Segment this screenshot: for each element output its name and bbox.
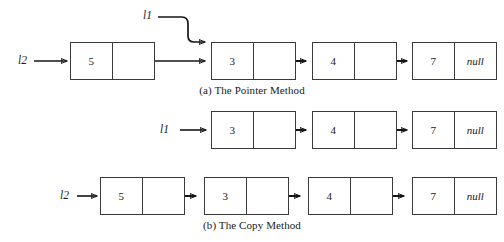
node-3-middle: 3 (211, 111, 296, 149)
node-7-data-cell-bottom: 7 (413, 178, 455, 214)
l2-pointer-label-top: l2 (18, 55, 27, 67)
node-4-data-cell-middle: 4 (313, 112, 355, 148)
node-7-null-cell-top: null (455, 43, 497, 79)
node-5-top: 5 (70, 42, 155, 80)
node-5-data-cell-bottom: 5 (101, 178, 143, 214)
node-4-next-cell-middle (355, 112, 397, 148)
node-3-data-cell-bottom: 3 (205, 178, 247, 214)
node-4-top: 4 (312, 42, 397, 80)
node-7-null-cell-middle: null (455, 112, 497, 148)
node-3-top: 3 (211, 42, 296, 80)
node-7-bottom: 7 null (412, 177, 497, 215)
caption-copy-method: (b) The Copy Method (0, 220, 504, 231)
node-4-next-cell-bottom (351, 178, 393, 214)
node-5-bottom: 5 (100, 177, 185, 215)
node-3-bottom: 3 (204, 177, 289, 215)
node-3-data-cell-middle: 3 (212, 112, 254, 148)
node-3-next-cell-bottom (247, 178, 289, 214)
node-7-data-cell-middle: 7 (413, 112, 455, 148)
node-5-next-cell-bottom (143, 178, 185, 214)
node-3-next-cell-top (254, 43, 296, 79)
caption-pointer-method: (a) The Pointer Method (0, 85, 504, 96)
node-7-top: 7 null (412, 42, 497, 80)
node-3-data-cell-top: 3 (212, 43, 254, 79)
node-5-next-cell-top (113, 43, 155, 79)
node-7-middle: 7 null (412, 111, 497, 149)
node-4-middle: 4 (312, 111, 397, 149)
l1-pointer-label-middle: l1 (160, 124, 169, 136)
node-4-bottom: 4 (308, 177, 393, 215)
node-4-data-cell-bottom: 4 (309, 178, 351, 214)
node-5-data-cell-top: 5 (71, 43, 113, 79)
arrow-l1-curved-top (158, 17, 205, 42)
node-4-next-cell-top (355, 43, 397, 79)
l2-pointer-label-bottom: l2 (60, 190, 69, 202)
node-7-data-cell-top: 7 (413, 43, 455, 79)
linked-list-figure: l2 l1 5 3 4 7 null (a) The Pointer Metho… (0, 0, 504, 242)
node-3-next-cell-middle (254, 112, 296, 148)
node-4-data-cell-top: 4 (313, 43, 355, 79)
node-7-null-cell-bottom: null (455, 178, 497, 214)
l1-pointer-label-top: l1 (143, 10, 152, 22)
